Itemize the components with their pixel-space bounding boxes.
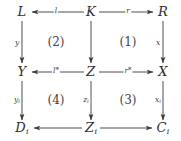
node-Ci: Ci (157, 121, 170, 136)
region-label-3: (3) (120, 94, 137, 106)
region-label-4: (4) (48, 94, 65, 106)
edge-label-Z-to-Zi: zi (82, 96, 90, 105)
edge-label-Z-to-Y: l* (52, 67, 60, 75)
edge-label-L-to-Y: y (14, 39, 20, 47)
node-L: L (18, 5, 27, 20)
edge-label-Z-to-X: r* (123, 67, 132, 75)
edge-label-X-to-Ci: xi (154, 96, 162, 105)
node-R: R (158, 5, 168, 20)
node-X: X (158, 65, 168, 80)
node-Z: Z (86, 65, 95, 80)
region-label-1: (1) (120, 36, 137, 48)
node-K: K (86, 5, 96, 20)
edge-label-K-to-R: r (125, 7, 131, 15)
node-Zi: Zi (85, 121, 97, 136)
edge-label-R-to-X: x (155, 39, 161, 47)
edge-label-Y-to-Di: yi (13, 96, 21, 105)
commutative-diagram: L K R Y Z X Di Zi Ci l r l* r* y x yi zi… (0, 0, 181, 141)
region-label-2: (2) (48, 36, 65, 48)
edge-label-K-to-L: l (54, 7, 58, 15)
node-Y: Y (18, 65, 27, 80)
node-Di: Di (15, 121, 28, 136)
